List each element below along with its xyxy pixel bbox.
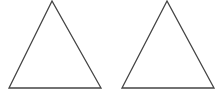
diagram-canvas [0, 0, 224, 93]
right-triangle [122, 1, 214, 88]
left-triangle [9, 1, 101, 88]
